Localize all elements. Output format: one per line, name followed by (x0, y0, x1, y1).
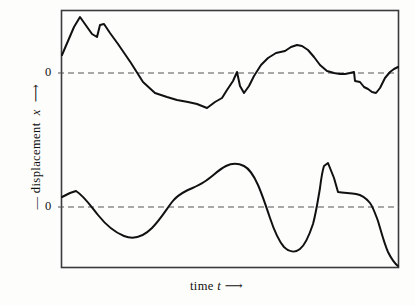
x-axis-label-variable: t (217, 279, 221, 293)
x-axis-arrow-icon: ⟶ (225, 279, 243, 293)
y-axis-label: — displacement x ⟶ (28, 67, 44, 227)
lower-trace-line (62, 163, 398, 266)
x-axis-label-text: time (190, 279, 214, 293)
y-axis-arrow-icon: ⟶ (29, 84, 43, 102)
x-axis-label: time t ⟶ (190, 278, 243, 294)
upper-trace-line (62, 17, 398, 108)
figure-container: — displacement x ⟶ time t ⟶ 0 0 (0, 0, 415, 305)
y-axis-label-variable: x (29, 109, 43, 115)
y-axis-label-dash: — (29, 197, 43, 210)
zero-tick-label-upper: 0 (45, 65, 51, 80)
plot-area (0, 0, 415, 305)
zero-tick-label-lower: 0 (45, 199, 51, 214)
y-axis-label-text: displacement (29, 122, 43, 193)
